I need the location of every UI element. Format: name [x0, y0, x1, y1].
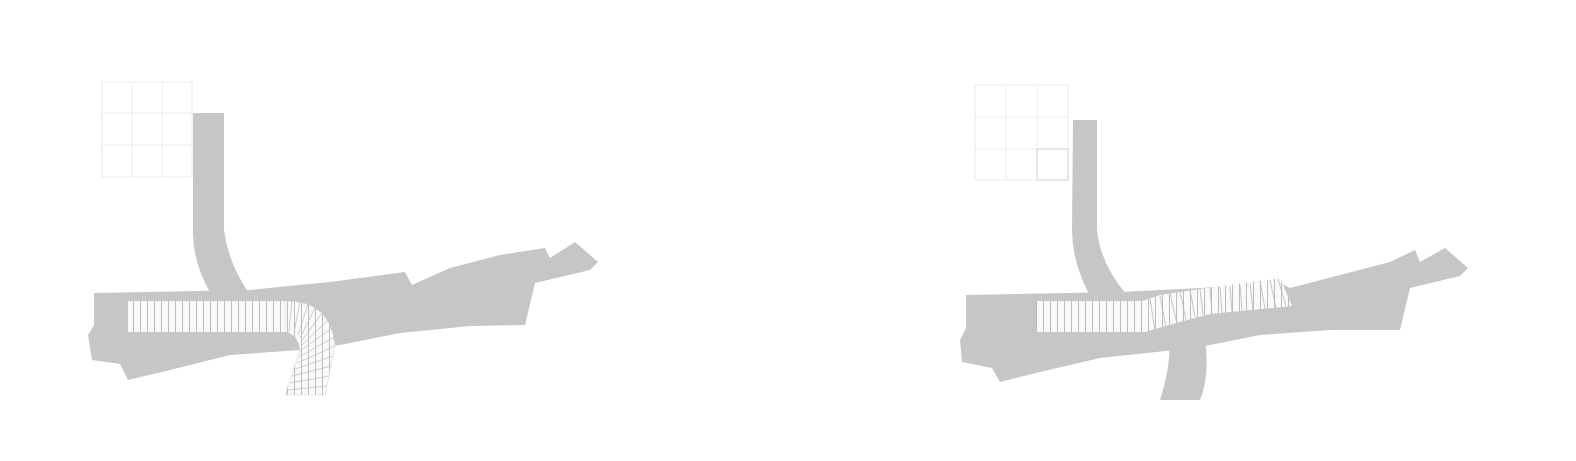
grid-overlay [102, 82, 192, 177]
left-site-plan [0, 0, 788, 461]
straight-structure [128, 301, 288, 332]
north-path [193, 113, 248, 296]
grid-overlay [975, 85, 1068, 180]
right-panel [872, 0, 1576, 461]
north-path [1072, 120, 1125, 296]
right-site-plan [872, 0, 1576, 461]
left-panel [0, 0, 788, 461]
straight-structure [1036, 301, 1146, 332]
